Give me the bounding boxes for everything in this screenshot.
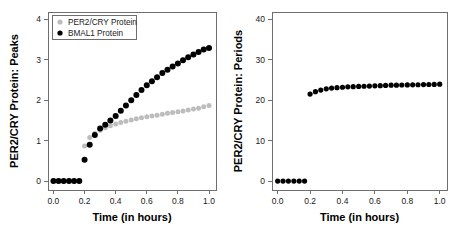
data-point xyxy=(286,179,291,184)
data-point xyxy=(159,70,165,76)
data-point xyxy=(196,49,202,55)
data-point xyxy=(405,82,410,87)
data-point xyxy=(185,54,191,60)
x-axis-tick-label: 0.0 xyxy=(272,196,284,206)
x-axis-tick-label: 1.0 xyxy=(434,196,446,206)
data-point xyxy=(345,84,350,89)
data-point xyxy=(134,116,139,121)
x-axis-tick-label: 0.2 xyxy=(79,196,91,206)
data-point xyxy=(367,83,372,88)
data-point xyxy=(92,132,98,138)
y-axis-tick-label: 10 xyxy=(256,136,266,146)
data-point xyxy=(307,92,312,97)
y-axis-tick-label: 1 xyxy=(36,136,41,146)
y-axis-tick-label: 3 xyxy=(36,55,41,65)
data-point xyxy=(280,179,285,184)
data-point xyxy=(123,119,128,124)
data-point xyxy=(186,108,191,113)
x-axis-tick-label: 0.4 xyxy=(110,196,122,206)
figure-container: 0.00.20.40.60.81.001234Time (in hours)PE… xyxy=(0,0,461,234)
data-point xyxy=(415,82,420,87)
data-point xyxy=(329,85,334,90)
data-point xyxy=(302,179,307,184)
data-point xyxy=(56,178,62,184)
legend-marker-2 xyxy=(57,30,62,35)
periods-scatter-plot: 0.00.20.40.60.81.0010203040Time (in hour… xyxy=(230,0,461,234)
data-point xyxy=(356,84,361,89)
y-axis-tick-label: 2 xyxy=(36,95,41,105)
data-point xyxy=(144,82,150,88)
data-point xyxy=(206,45,212,51)
x-axis-tick-label: 0.8 xyxy=(172,196,184,206)
y-axis-tick-label: 0 xyxy=(36,176,41,186)
data-point xyxy=(155,113,160,118)
data-point xyxy=(102,122,108,128)
chart-panel-peaks: 0.00.20.40.60.81.001234Time (in hours)PE… xyxy=(0,0,230,234)
data-point xyxy=(196,106,201,111)
data-point xyxy=(113,113,119,119)
data-point xyxy=(426,82,431,87)
data-point xyxy=(383,83,388,88)
data-point xyxy=(313,89,318,94)
data-point xyxy=(165,111,170,116)
y-axis-tick-label: 4 xyxy=(36,14,41,24)
data-point xyxy=(61,178,67,184)
data-point xyxy=(164,67,170,73)
data-point xyxy=(139,115,144,120)
data-point xyxy=(87,135,92,140)
data-point xyxy=(297,179,302,184)
x-axis-tick-label: 0.6 xyxy=(369,196,381,206)
data-point xyxy=(87,142,93,148)
data-point xyxy=(361,84,366,89)
data-point xyxy=(138,87,144,93)
data-point xyxy=(437,82,442,87)
data-point xyxy=(372,83,377,88)
data-point xyxy=(97,126,103,132)
y-axis-tick-label: 20 xyxy=(256,95,266,105)
legend-label-2: BMAL1 Protein xyxy=(68,29,124,38)
plot-area-frame xyxy=(272,12,447,190)
peaks-scatter-plot: 0.00.20.40.60.81.001234Time (in hours)PE… xyxy=(0,0,230,234)
data-point xyxy=(82,157,88,163)
x-axis-tick-label: 0.4 xyxy=(337,196,349,206)
data-point xyxy=(324,86,329,91)
data-point xyxy=(421,82,426,87)
data-point xyxy=(190,51,196,57)
x-axis-tick-label: 0.8 xyxy=(401,196,413,206)
data-point xyxy=(170,64,176,70)
data-point xyxy=(133,92,139,98)
data-point xyxy=(275,179,280,184)
data-point xyxy=(129,118,134,123)
data-point xyxy=(201,47,207,53)
data-point xyxy=(378,83,383,88)
legend-label-1: PER2/CRY Protein xyxy=(68,18,137,27)
data-point xyxy=(170,110,175,115)
data-point xyxy=(180,57,186,63)
x-axis-title: Time (in hours) xyxy=(320,211,400,223)
y-axis-tick-label: 40 xyxy=(256,14,266,24)
data-point xyxy=(394,83,399,88)
x-axis-title: Time (in hours) xyxy=(92,211,172,223)
data-point xyxy=(340,85,345,90)
y-axis-tick-label: 30 xyxy=(256,55,266,65)
data-point xyxy=(128,97,134,103)
data-point xyxy=(107,117,113,123)
data-point xyxy=(175,109,180,114)
y-axis-title: PER2/CRY Protein: Peaks xyxy=(8,34,20,168)
data-point xyxy=(113,122,118,127)
data-point xyxy=(181,108,186,113)
chart-panel-periods: 0.00.20.40.60.81.0010203040Time (in hour… xyxy=(230,0,461,234)
data-point xyxy=(82,143,87,148)
data-point xyxy=(160,112,165,117)
data-point xyxy=(76,178,82,184)
legend-marker-1 xyxy=(57,19,62,24)
y-axis-title: PER2/CRY Protein: Periods xyxy=(232,30,244,172)
x-axis-tick-label: 1.0 xyxy=(203,196,215,206)
data-point xyxy=(351,84,356,89)
data-point xyxy=(108,123,113,128)
data-point xyxy=(71,178,77,184)
data-point xyxy=(410,82,415,87)
x-axis-tick-label: 0.6 xyxy=(141,196,153,206)
data-point xyxy=(66,178,72,184)
data-point xyxy=(175,60,181,66)
